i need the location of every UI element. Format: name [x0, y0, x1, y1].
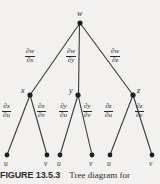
- leaf-label-4: v: [89, 160, 92, 168]
- node-label-w: w: [77, 10, 82, 18]
- leaf-label-5: u: [107, 160, 111, 168]
- leaf-label-3: u: [57, 160, 61, 168]
- edge-label-dx-dv: ∂x ∂v: [37, 103, 46, 119]
- node-dot-x: [27, 92, 32, 97]
- node-dot-y: [75, 92, 80, 97]
- node-label-z: z: [137, 87, 140, 95]
- edge-label-dw-dx-denominator: ∂x: [25, 57, 35, 65]
- edge-label-dy-dv: ∂y ∂v: [83, 103, 92, 119]
- edge-label-dx-du-denominator: ∂u: [2, 112, 11, 120]
- figure-caption: FIGURE 13.5.3 Tree diagram for: [0, 168, 160, 183]
- node-label-x: x: [21, 87, 25, 95]
- edge-label-dy-du: ∂y ∂u: [59, 103, 68, 119]
- leaf-dot-2: [45, 153, 50, 158]
- leaf-label-2: v: [44, 160, 47, 168]
- tree-edges-bottom: [7, 95, 152, 155]
- edge-label-dy-dv-denominator: ∂v: [83, 112, 92, 120]
- leaf-dot-5: [108, 153, 113, 158]
- edge-label-dx-dv-denominator: ∂v: [37, 112, 46, 120]
- figure-caption-label: FIGURE 13.5.3: [0, 170, 60, 180]
- edge-w-y: [79, 23, 80, 95]
- leaf-label-1: u: [4, 160, 8, 168]
- edge-label-dw-dy-denominator: ∂y: [66, 57, 76, 65]
- edge-label-dw-dy: ∂w ∂y: [66, 48, 76, 64]
- edge-w-z: [80, 23, 133, 95]
- node-dot-z: [130, 92, 135, 97]
- figure-tree-diagram: w x y z u v u v u v ∂w ∂x ∂w ∂y ∂w ∂z ∂x…: [0, 0, 160, 184]
- node-dot-w: [77, 20, 82, 25]
- edge-label-dz-dv: ∂z ∂v: [135, 103, 144, 119]
- edge-label-dy-du-denominator: ∂u: [59, 112, 68, 120]
- node-label-y: y: [69, 87, 73, 95]
- leaf-dot-4: [90, 153, 95, 158]
- edge-label-dx-du: ∂x ∂u: [2, 103, 11, 119]
- leaf-label-6: v: [149, 160, 152, 168]
- tree-diagram-canvas: [0, 0, 160, 168]
- edge-label-dz-du: ∂z ∂u: [104, 103, 113, 119]
- edge-z-u: [110, 95, 133, 155]
- edge-label-dz-du-denominator: ∂u: [104, 112, 113, 120]
- figure-caption-text: Tree diagram for: [60, 170, 130, 180]
- leaf-dot-3: [58, 153, 63, 158]
- edge-label-dw-dz: ∂w ∂z: [110, 48, 120, 64]
- edge-label-dw-dz-denominator: ∂z: [110, 57, 120, 65]
- edge-label-dw-dx: ∂w ∂x: [25, 48, 35, 64]
- edge-label-dz-dv-denominator: ∂v: [135, 112, 144, 120]
- leaf-dot-6: [150, 153, 155, 158]
- leaf-dot-1: [5, 153, 10, 158]
